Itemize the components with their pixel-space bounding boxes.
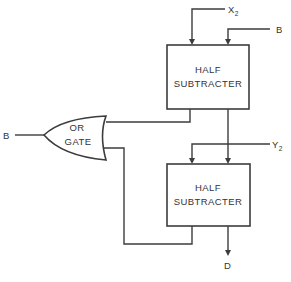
b-top-input-wire bbox=[225, 29, 270, 45]
half-subtracter-1: HALF SUBTRACTER bbox=[167, 45, 249, 109]
b-left-label: B bbox=[3, 130, 10, 141]
arrow-down-icon bbox=[225, 250, 231, 256]
arrow-down-icon bbox=[189, 39, 195, 45]
arrow-down-icon bbox=[225, 39, 231, 45]
half-subtracter-2: HALF SUBTRACTER bbox=[167, 164, 250, 226]
half-subtracter-1-line1: HALF bbox=[195, 64, 221, 75]
d-output-wire bbox=[225, 226, 231, 256]
half-subtracter-2-line2: SUBTRACTER bbox=[174, 196, 242, 207]
x2-input-wire bbox=[189, 9, 225, 45]
half-subtracter-2-line1: HALF bbox=[195, 182, 221, 193]
b-top-label: B bbox=[276, 24, 283, 35]
or-gate: OR GATE bbox=[44, 116, 106, 160]
y2-label: Y2 bbox=[272, 139, 283, 152]
hs1-difference-to-hs2-wire bbox=[225, 109, 231, 164]
x2-label: X2 bbox=[228, 4, 239, 17]
arrow-down-icon bbox=[189, 158, 195, 164]
hs1-borrow-to-or-wire bbox=[106, 109, 190, 122]
full-subtractor-diagram: X2 B HALF SUBTRACTER Y2 HALF SUBTRACTER … bbox=[0, 0, 291, 282]
half-subtracter-1-line2: SUBTRACTER bbox=[174, 78, 242, 89]
or-gate-line2: GATE bbox=[65, 136, 92, 147]
arrow-down-icon bbox=[225, 158, 231, 164]
d-output-label: D bbox=[224, 260, 231, 271]
or-gate-line1: OR bbox=[69, 122, 84, 133]
